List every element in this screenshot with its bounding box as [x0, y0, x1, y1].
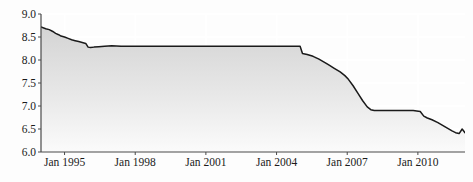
y-axis-tick-label: 8.5 [22, 31, 37, 43]
chart-container: 9.08.58.07.57.06.56.0 Jan 1995Jan 1998Ja… [0, 0, 473, 182]
y-axis-tick-label: 7.5 [22, 77, 37, 89]
y-axis-tick-label: 8.0 [22, 54, 37, 66]
x-axis-tick-label: Jan 1998 [115, 156, 156, 168]
x-axis-tick-label: Jan 2004 [256, 156, 297, 168]
x-axis-tick-label: Jan 2007 [327, 156, 368, 168]
x-axis-tick-label: Jan 2010 [397, 156, 438, 168]
x-axis-tick-label: Jan 1995 [44, 156, 85, 168]
x-axis-tick-label: Jan 2001 [185, 156, 226, 168]
line-chart: 9.08.58.07.57.06.56.0 Jan 1995Jan 1998Ja… [0, 0, 473, 182]
y-axis-tick-label: 6.0 [22, 146, 37, 158]
y-axis-tick-label: 9.0 [22, 8, 37, 20]
y-axis-tick-label: 7.0 [22, 100, 37, 112]
y-axis-tick-label: 6.5 [22, 123, 37, 135]
